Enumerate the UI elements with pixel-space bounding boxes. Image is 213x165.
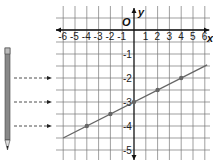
coordinate-plane: yxO-6-5-4-3-2-1123456-1-2-3-4-5 (0, 0, 213, 165)
svg-text:-4: -4 (123, 121, 132, 132)
svg-text:6: 6 (202, 31, 208, 42)
dashed-arrows (14, 76, 52, 128)
svg-text:-2: -2 (123, 73, 132, 84)
axes (56, 8, 209, 160)
svg-text:-6: -6 (58, 31, 67, 42)
svg-text:5: 5 (190, 31, 196, 42)
grid (56, 6, 210, 160)
svg-text:4: 4 (178, 31, 184, 42)
svg-text:-5: -5 (70, 31, 79, 42)
svg-text:y: y (137, 6, 145, 18)
svg-text:2: 2 (155, 31, 161, 42)
svg-text:-3: -3 (94, 31, 103, 42)
svg-text:-1: -1 (123, 49, 132, 60)
svg-text:3: 3 (166, 31, 172, 42)
pencil-icon (5, 48, 10, 150)
svg-text:-4: -4 (82, 31, 91, 42)
svg-text:-1: -1 (117, 31, 126, 42)
svg-text:O: O (122, 16, 131, 28)
tick-labels: yxO-6-5-4-3-2-1123456-1-2-3-4-5 (58, 6, 213, 156)
svg-text:-2: -2 (105, 31, 114, 42)
svg-text:1: 1 (143, 31, 149, 42)
svg-text:-5: -5 (123, 145, 132, 156)
data-line (63, 65, 207, 138)
